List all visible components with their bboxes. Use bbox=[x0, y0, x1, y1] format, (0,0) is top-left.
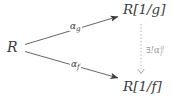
node-ring-R: R bbox=[7, 40, 18, 54]
arrow-top-label: αg bbox=[69, 22, 82, 31]
node-localization-g: R[1/g] bbox=[123, 3, 165, 17]
arrow-bottom-label: αf bbox=[70, 60, 81, 69]
dotted-arrowhead bbox=[138, 69, 144, 74]
unique-map-scripts: gf bbox=[160, 44, 164, 56]
unique-map-subscript: f bbox=[160, 50, 164, 56]
alpha-g-subscript: g bbox=[76, 25, 80, 33]
unique-map-label: ∃!αgf bbox=[146, 44, 164, 56]
commutative-diagram: R R[1/g] R[1/f] αg αf ∃!αgf bbox=[0, 0, 173, 101]
alpha-f-subscript: f bbox=[77, 63, 80, 71]
node-localization-f: R[1/f] bbox=[123, 80, 162, 94]
unique-map-base: ∃!α bbox=[146, 46, 160, 55]
